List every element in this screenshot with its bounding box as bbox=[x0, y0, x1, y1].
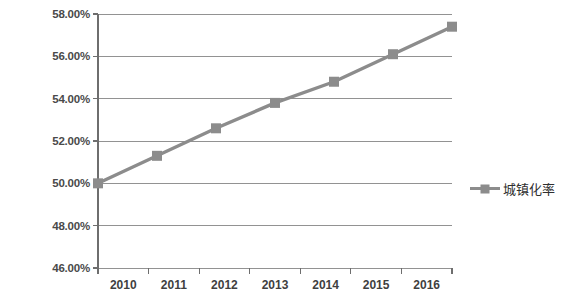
y-axis-tick-label: 48.00% bbox=[4, 220, 90, 232]
x-axis-tick-label: 2013 bbox=[250, 278, 301, 292]
data-point-marker bbox=[388, 49, 398, 59]
y-axis-tick-label: 46.00% bbox=[4, 262, 90, 274]
y-axis-tick-label: 54.00% bbox=[4, 93, 90, 105]
y-axis-tick-label: 58.00% bbox=[4, 8, 90, 20]
data-point-marker bbox=[270, 98, 280, 108]
x-axis-tick-label: 2012 bbox=[199, 278, 250, 292]
x-axis-tick-label: 2010 bbox=[98, 278, 149, 292]
chart-canvas bbox=[0, 0, 577, 295]
data-point-marker bbox=[329, 77, 339, 87]
data-point-marker bbox=[152, 151, 162, 161]
x-axis-tick-label: 2015 bbox=[351, 278, 402, 292]
line-chart: 58.00%56.00%54.00%52.00%50.00%48.00%46.0… bbox=[0, 0, 577, 295]
data-point-marker bbox=[93, 178, 103, 188]
legend-label: 城镇化率 bbox=[503, 179, 555, 198]
y-axis-tick-label: 52.00% bbox=[4, 135, 90, 147]
y-axis-tick-label: 50.00% bbox=[4, 177, 90, 189]
x-axis-tick-label: 2016 bbox=[401, 278, 452, 292]
legend-square-icon bbox=[481, 184, 490, 193]
data-point-marker bbox=[447, 22, 457, 32]
data-point-marker bbox=[211, 123, 221, 133]
legend-line-marker bbox=[470, 187, 500, 190]
x-axis-tick-label: 2011 bbox=[149, 278, 200, 292]
y-axis-tick-label: 56.00% bbox=[4, 50, 90, 62]
chart-legend: 城镇化率 bbox=[470, 179, 555, 198]
x-axis-tick-label: 2014 bbox=[300, 278, 351, 292]
